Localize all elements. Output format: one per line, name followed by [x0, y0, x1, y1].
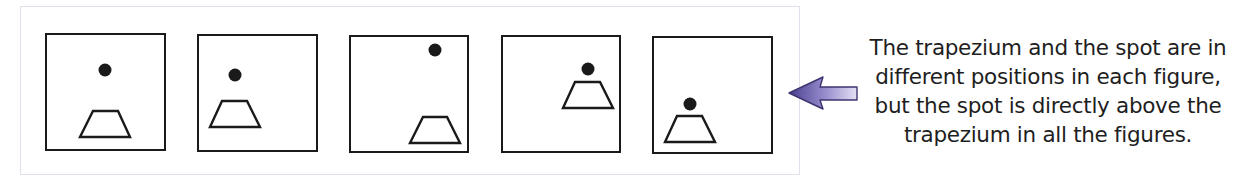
spot-dot — [683, 97, 696, 110]
figure-1 — [45, 33, 166, 151]
spot-dot — [581, 62, 594, 75]
arrow-left-icon — [786, 74, 860, 114]
spot-dot — [228, 68, 241, 81]
trapezium-shape — [410, 117, 460, 143]
trapezium-shape — [210, 101, 260, 127]
figure-3 — [349, 35, 469, 153]
spot-dot — [428, 43, 441, 56]
spot-dot — [98, 63, 111, 76]
trapezium-shape — [80, 111, 130, 137]
figure-4 — [501, 35, 621, 153]
figure-2 — [197, 34, 318, 152]
trapezium-shape — [665, 116, 715, 142]
trapezium-shape — [563, 82, 613, 108]
caption-line: different positions in each figure, — [858, 62, 1238, 91]
caption-line: but the spot is directly above the — [858, 91, 1238, 120]
caption-line: trapezium in all the figures. — [858, 120, 1238, 149]
caption-line: The trapezium and the spot are in — [858, 33, 1238, 62]
caption-text: The trapezium and the spot are in differ… — [858, 33, 1238, 149]
figure-5 — [652, 36, 773, 154]
